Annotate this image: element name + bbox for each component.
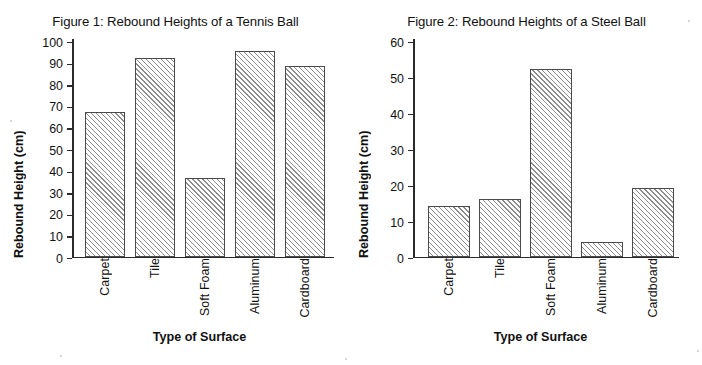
y-tick-label: 50	[49, 144, 63, 156]
y-tick-label: 30	[390, 144, 404, 156]
bar	[285, 66, 325, 256]
figure-1-bars	[72, 41, 322, 257]
figure-2-category-labels: CarpetTileSoft FoamAluminumCardboard	[413, 258, 668, 362]
y-tick-label: 100	[42, 36, 63, 48]
y-tick-label: 10	[390, 216, 404, 228]
y-tick-label: 20	[49, 209, 63, 221]
figure-1-title: Figure 1: Rebound Heights of a Tennis Ba…	[0, 14, 351, 29]
y-tick-label: 20	[390, 180, 404, 192]
figure-2-y-axis-title: Rebound Height (cm)	[357, 42, 371, 258]
figure-1-x-axis-title: Type of Surface	[0, 330, 351, 344]
y-tick-label: 50	[390, 72, 404, 84]
scan-speck	[697, 350, 699, 352]
bar	[135, 58, 175, 257]
figure-1-plot-area: 0102030405060708090100 CarpetTileSoft Fo…	[72, 42, 322, 258]
bar	[479, 199, 521, 257]
bar	[85, 112, 125, 257]
y-tick-label: 40	[49, 166, 63, 178]
y-tick-label: 60	[390, 36, 404, 48]
x-category-label: Carpet	[98, 258, 112, 296]
y-tick-label: 70	[49, 101, 63, 113]
x-category-label: Tile	[148, 258, 162, 278]
y-tick-label: 60	[49, 123, 63, 135]
scan-speck	[688, 20, 690, 22]
y-tick-label: 30	[49, 187, 63, 199]
x-category-label: Soft Foam	[198, 258, 212, 316]
x-category-label: Aluminum	[248, 258, 262, 314]
y-tick-label: 10	[49, 231, 63, 243]
figure-1-y-axis-title: Rebound Height (cm)	[12, 42, 26, 258]
figure-2-title: Figure 2: Rebound Heights of a Steel Bal…	[351, 14, 702, 29]
figures-page: Figure 1: Rebound Heights of a Tennis Ba…	[0, 0, 702, 365]
figure-2-x-axis-title: Type of Surface	[351, 330, 702, 344]
x-category-label: Tile	[493, 258, 507, 278]
figure-1-category-labels: CarpetTileSoft FoamAluminumCardboard	[72, 258, 322, 362]
scan-speck	[345, 358, 347, 360]
bar	[235, 51, 275, 256]
figure-2-plot-area: 0102030405060 CarpetTileSoft FoamAluminu…	[413, 42, 668, 258]
figure-2: Figure 2: Rebound Heights of a Steel Bal…	[351, 0, 702, 365]
y-tick-label: 0	[397, 252, 404, 264]
x-category-label: Cardboard	[298, 258, 312, 317]
figure-1: Figure 1: Rebound Heights of a Tennis Ba…	[0, 0, 351, 365]
x-category-label: Soft Foam	[544, 258, 558, 316]
bar	[428, 206, 470, 256]
x-category-label: Carpet	[442, 258, 456, 296]
x-category-label: Cardboard	[646, 258, 660, 317]
y-tick-label: 80	[49, 79, 63, 91]
figure-2-bars	[413, 41, 668, 257]
scan-speck	[10, 120, 12, 122]
bar	[581, 242, 623, 256]
y-tick-label: 40	[390, 108, 404, 120]
y-tick-label: 0	[56, 252, 63, 264]
y-tick-label: 90	[49, 58, 63, 70]
bar	[530, 69, 572, 256]
bar	[632, 188, 674, 256]
bar	[185, 178, 225, 257]
x-category-label: Aluminum	[595, 258, 609, 314]
scan-speck	[60, 355, 62, 357]
